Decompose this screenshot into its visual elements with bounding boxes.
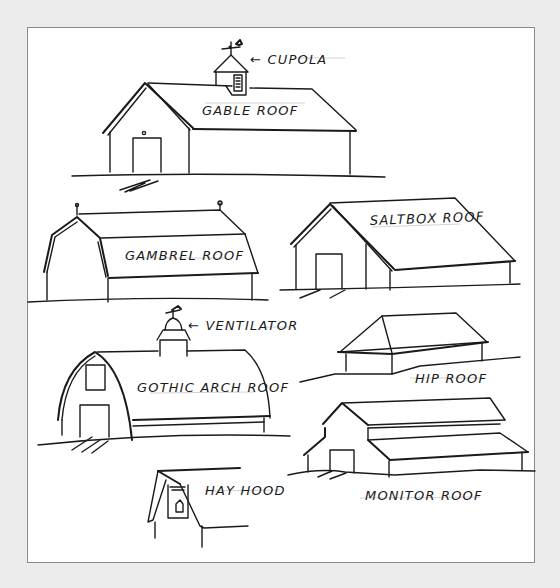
monitor-barn	[288, 398, 535, 498]
monitor-roof-label: MONITOR ROOF	[365, 488, 483, 503]
gothic-arch-roof-label: GOTHIC ARCH ROOF	[137, 380, 289, 395]
gambrel-roof-label: GAMBREL ROOF	[125, 248, 244, 263]
hay-hood-label: HAY HOOD	[205, 483, 286, 498]
hip-roof-label: HIP ROOF	[415, 371, 487, 386]
weathervane-icon	[222, 40, 242, 55]
cupola-label: ← CUPOLA	[250, 52, 327, 67]
saltbox-roof-label: SALTBOX ROOF	[370, 209, 485, 228]
ventilator	[157, 306, 190, 356]
gable-roof-label: GABLE ROOF	[202, 103, 298, 118]
hay-hood-detail	[148, 468, 280, 547]
ventilator-label: ← VENTILATOR	[188, 318, 298, 333]
roof-types-sketch: ← CUPOLA GABLE ROOF GAMBREL ROOF S	[0, 0, 560, 588]
cupola	[214, 40, 248, 95]
weathervane-icon	[166, 306, 181, 313]
